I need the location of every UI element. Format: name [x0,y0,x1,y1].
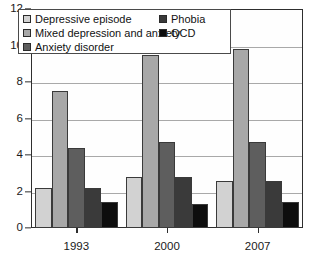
x-tick-label-1993: 1993 [64,240,90,252]
bar-2007-anxiety-disorder [249,142,266,228]
bar-1993-mixed-depression-and-anxiety [52,91,69,228]
legend-swatch-icon [159,29,167,37]
bar-1993-anxiety-disorder [68,148,85,228]
legend-column-right: PhobiaOCD [159,12,205,40]
legend-item-anxiety-disorder[interactable]: Anxiety disorder [23,40,181,54]
bar-2000-mixed-depression-and-anxiety [142,55,159,228]
y-tick-label-8: 8 [17,76,23,88]
x-tick-label-2000: 2000 [154,240,180,252]
bar-2000-depressive-episode [126,177,143,228]
x-axis: 199320002007 [31,232,303,260]
bar-2000-phobia [175,177,192,228]
x-tick-label-2007: 2007 [245,240,271,252]
legend-item-label: Anxiety disorder [35,42,114,53]
legend-item-label: Depressive episode [35,14,132,25]
chart-legend: Depressive episodeMixed depression and a… [18,9,231,54]
legend-item-label: OCD [171,28,195,39]
bar-1993-phobia [85,188,102,228]
legend-item-ocd[interactable]: OCD [159,26,205,40]
x-tick-mark [167,228,168,233]
y-tick-label-6: 6 [17,113,23,125]
y-tick-label-0: 0 [17,222,23,234]
legend-item-label: Phobia [171,14,205,25]
bar-1993-depressive-episode [35,188,52,228]
legend-item-mixed-depression-and-anxiety[interactable]: Mixed depression and anxiety [23,26,181,40]
y-tick-label-4: 4 [17,149,23,161]
bar-2000-ocd [192,204,209,228]
y-tick-label-2: 2 [17,186,23,198]
legend-swatch-icon [23,15,31,23]
legend-column-left: Depressive episodeMixed depression and a… [23,12,181,54]
legend-item-depressive-episode[interactable]: Depressive episode [23,12,181,26]
x-tick-mark [258,228,259,233]
bar-2007-ocd [282,202,299,228]
legend-swatch-icon [23,43,31,51]
bar-1993-ocd [101,202,118,228]
legend-swatch-icon [23,29,31,37]
bar-2007-depressive-episode [216,181,233,228]
bar-chart: 024681012 199320002007 Depressive episod… [0,0,312,262]
legend-item-phobia[interactable]: Phobia [159,12,205,26]
x-tick-mark [76,228,77,233]
bar-2007-phobia [266,181,283,228]
legend-swatch-icon [159,15,167,23]
bar-2007-mixed-depression-and-anxiety [233,49,250,228]
bar-2000-anxiety-disorder [159,142,176,228]
